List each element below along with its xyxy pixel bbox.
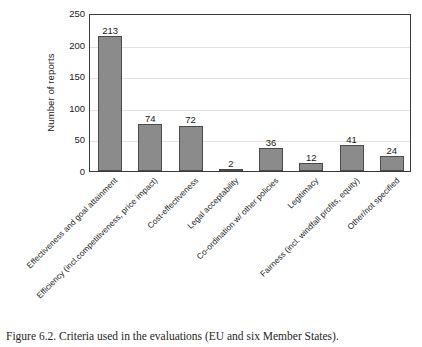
- figure-container: Number of reports 250200150100500 213747…: [0, 0, 422, 347]
- figure-caption: Figure 6.2. Criteria used in the evaluat…: [6, 330, 416, 343]
- x-axis-label: Legitimacy: [314, 148, 348, 182]
- x-axis-label-text: Legitimacy: [286, 176, 320, 210]
- x-axis-label-text: Co-ordination w/ other policies: [195, 176, 280, 261]
- x-axis-label: Co-ordination w/ other policies: [274, 97, 359, 182]
- x-axis-category-labels: Effectiveness and goal attainmentEfficie…: [0, 0, 422, 347]
